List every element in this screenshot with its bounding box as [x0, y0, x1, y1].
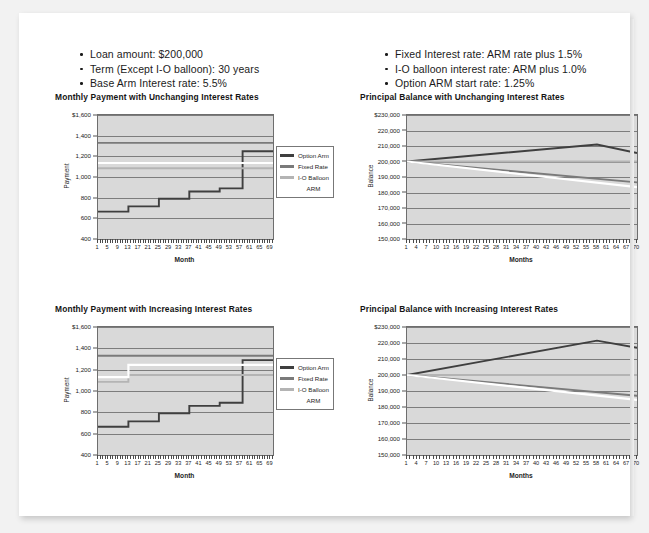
x-tick-mark [234, 455, 235, 459]
x-tick-mark [186, 239, 187, 243]
x-tick-mark [257, 239, 258, 243]
x-tick-label: 53 [226, 244, 232, 250]
x-tick-mark [239, 239, 240, 243]
x-tick-label: 17 [134, 244, 140, 250]
x-tick-mark [506, 239, 507, 243]
legend-swatch [280, 154, 294, 157]
x-tick-mark [573, 239, 574, 243]
x-tick-mark [272, 455, 273, 459]
legend-item: I-O Balloon [280, 172, 329, 183]
x-tick-mark [148, 239, 149, 243]
x-tick-mark [112, 455, 113, 459]
legend-swatch [280, 176, 294, 179]
x-tick-label: 69 [266, 460, 272, 466]
x-tick-label: 61 [603, 460, 609, 466]
x-tick-mark [206, 239, 207, 243]
legend-label: Fixed Rate [298, 375, 328, 382]
x-tick-mark [244, 455, 245, 459]
x-tick-mark [214, 455, 215, 459]
y-tick-label: 150,000 [378, 235, 406, 242]
x-tick-mark [569, 239, 570, 243]
x-tick-label: 46 [553, 244, 559, 250]
x-tick-mark [242, 239, 243, 243]
x-tick-mark [423, 455, 424, 459]
x-tick-mark [603, 239, 604, 243]
x-tick-mark [229, 239, 230, 243]
x-tick-mark [513, 239, 514, 243]
x-tick-mark [553, 239, 554, 243]
x-tick-label: 9 [116, 460, 119, 466]
x-tick-label: 21 [145, 460, 151, 466]
x-tick-mark [122, 239, 123, 243]
x-tick-label: 40 [533, 460, 539, 466]
x-tick-mark [158, 455, 159, 459]
x-tick-mark [599, 239, 600, 243]
x-tick-mark [117, 239, 118, 243]
x-tick-mark [211, 239, 212, 243]
legend-label: Option Arm [298, 152, 329, 159]
x-tick-mark [576, 455, 577, 459]
x-tick-mark [259, 455, 260, 459]
x-tick-mark [173, 455, 174, 459]
x-tick-label: 13 [443, 460, 449, 466]
y-tick-label: 400 [81, 235, 97, 242]
x-tick-label: 55 [583, 244, 589, 250]
x-tick-mark [133, 455, 134, 459]
x-tick-mark [559, 239, 560, 243]
x-tick-mark [509, 455, 510, 459]
x-tick-mark [409, 239, 410, 243]
bullet-list-right: Fixed Interest rate: ARM rate plus 1.5% … [384, 47, 586, 91]
x-axis: 159131721252933374145495357616569 [97, 455, 272, 465]
x-tick-mark [439, 455, 440, 459]
y-tick-label: 190,000 [378, 387, 406, 394]
x-tick-mark [426, 239, 427, 243]
series-line [407, 145, 637, 162]
x-tick-mark [138, 455, 139, 459]
x-tick-label: 46 [553, 460, 559, 466]
x-tick-mark [198, 455, 199, 459]
x-tick-label: 33 [175, 460, 181, 466]
x-tick-mark [439, 239, 440, 243]
x-tick-mark [160, 455, 161, 459]
x-tick-mark [419, 455, 420, 459]
x-tick-mark [214, 239, 215, 243]
legend-item: Option Arm [280, 150, 329, 161]
x-tick-label: 65 [256, 460, 262, 466]
x-tick-mark [100, 455, 101, 459]
x-tick-mark [416, 239, 417, 243]
x-tick-label: 64 [613, 460, 619, 466]
x-tick-mark [127, 239, 128, 243]
x-tick-mark [176, 455, 177, 459]
bullet-item: Term (Except I-O balloon): 30 years [79, 62, 259, 77]
x-tick-mark [563, 455, 564, 459]
y-tick-label: $230,000 [374, 323, 406, 330]
x-tick-mark [556, 239, 557, 243]
x-tick-mark [413, 455, 414, 459]
x-tick-mark [107, 455, 108, 459]
x-tick-mark [193, 239, 194, 243]
x-tick-mark [181, 239, 182, 243]
legend-label: I-O Balloon [298, 386, 329, 393]
legend-label: Option Arm [298, 364, 329, 371]
plot-canvas [406, 114, 638, 240]
y-tick-label: 200,000 [378, 157, 406, 164]
x-tick-label: 22 [473, 460, 479, 466]
series-layer [98, 115, 273, 239]
x-tick-mark [616, 455, 617, 459]
x-tick-mark [122, 455, 123, 459]
x-tick-mark [183, 455, 184, 459]
x-tick-mark [623, 239, 624, 243]
bullet-item: Base Arm Interest rate: 5.5% [79, 76, 259, 91]
x-tick-mark [533, 239, 534, 243]
x-tick-mark [579, 455, 580, 459]
x-tick-mark [204, 455, 205, 459]
x-tick-mark [629, 455, 630, 459]
x-tick-mark [453, 455, 454, 459]
x-tick-mark [576, 239, 577, 243]
x-tick-mark [523, 455, 524, 459]
x-tick-mark [264, 239, 265, 243]
x-tick-label: 13 [124, 244, 130, 250]
x-tick-mark [150, 455, 151, 459]
x-tick-mark [586, 455, 587, 459]
x-tick-label: 45 [205, 244, 211, 250]
